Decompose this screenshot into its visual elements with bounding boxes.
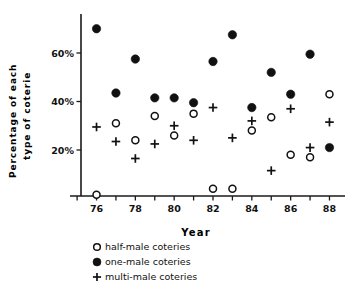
data-point <box>189 99 197 107</box>
data-point <box>170 94 178 102</box>
legend-marker-plus <box>93 273 101 281</box>
data-point <box>325 143 333 151</box>
data-point <box>306 50 314 58</box>
data-point <box>306 143 315 152</box>
x-tick-label: 88 <box>323 203 337 214</box>
data-point <box>112 137 121 146</box>
data-point <box>92 25 100 33</box>
y-tick-label: 20% <box>51 145 74 156</box>
x-tick-label: 76 <box>90 203 104 214</box>
x-tick-label: 80 <box>168 203 182 214</box>
y-axis-label: Percentage of each type of coterie <box>8 64 32 178</box>
y-tick-label: 60% <box>51 48 74 59</box>
y-axis-label-line2: type of coterie <box>22 72 32 160</box>
axes <box>70 14 345 196</box>
data-point <box>210 185 217 192</box>
scatter-chart: 20%40%60% 76788082848688 Percentage of e… <box>0 0 352 291</box>
data-point <box>248 127 255 134</box>
x-tick-label: 78 <box>129 203 143 214</box>
data-point <box>151 113 158 120</box>
data-point <box>248 117 257 126</box>
data-point <box>307 154 314 161</box>
data-point <box>93 191 100 198</box>
legend-marker-filled-circle <box>93 258 101 266</box>
data-point <box>112 120 119 127</box>
x-tick-label: 82 <box>206 203 219 214</box>
data-point <box>171 132 178 139</box>
data-point <box>209 57 217 65</box>
data-point <box>248 103 256 111</box>
data-point <box>150 140 159 149</box>
legend-marker-open-circle <box>94 244 101 251</box>
legend-label: half-male coteries <box>105 241 190 252</box>
data-points <box>92 25 334 199</box>
chart-canvas: 20%40%60% 76788082848688 Percentage of e… <box>0 0 352 291</box>
data-point <box>229 185 236 192</box>
data-point <box>92 123 101 132</box>
data-point <box>209 103 218 112</box>
data-point <box>228 31 236 39</box>
data-point <box>170 121 179 130</box>
data-point <box>190 110 197 117</box>
data-point <box>151 94 159 102</box>
data-point <box>228 134 237 143</box>
data-point <box>286 90 294 98</box>
data-point <box>325 118 334 127</box>
legend-label: multi-male coteries <box>105 271 197 282</box>
data-point <box>131 55 139 63</box>
data-point <box>326 91 333 98</box>
y-axis-label-line1: Percentage of each <box>8 64 18 178</box>
data-point <box>268 114 275 121</box>
y-axis-ticks: 20%40%60% <box>51 48 81 156</box>
data-point <box>267 68 275 76</box>
data-point <box>131 154 140 163</box>
legend: half-male coteriesone-male coteriesmulti… <box>93 241 197 282</box>
legend-label: one-male coteries <box>105 256 191 267</box>
x-tick-label: 84 <box>245 203 259 214</box>
y-tick-label: 40% <box>51 96 74 107</box>
data-point <box>112 89 120 97</box>
data-point <box>287 151 294 158</box>
x-axis-ticks: 76788082848688 <box>77 196 336 214</box>
data-point <box>267 166 276 175</box>
x-axis-label: Year <box>180 227 211 238</box>
data-point <box>189 136 198 145</box>
x-tick-label: 86 <box>284 203 298 214</box>
data-point <box>286 104 295 113</box>
data-point <box>132 137 139 144</box>
